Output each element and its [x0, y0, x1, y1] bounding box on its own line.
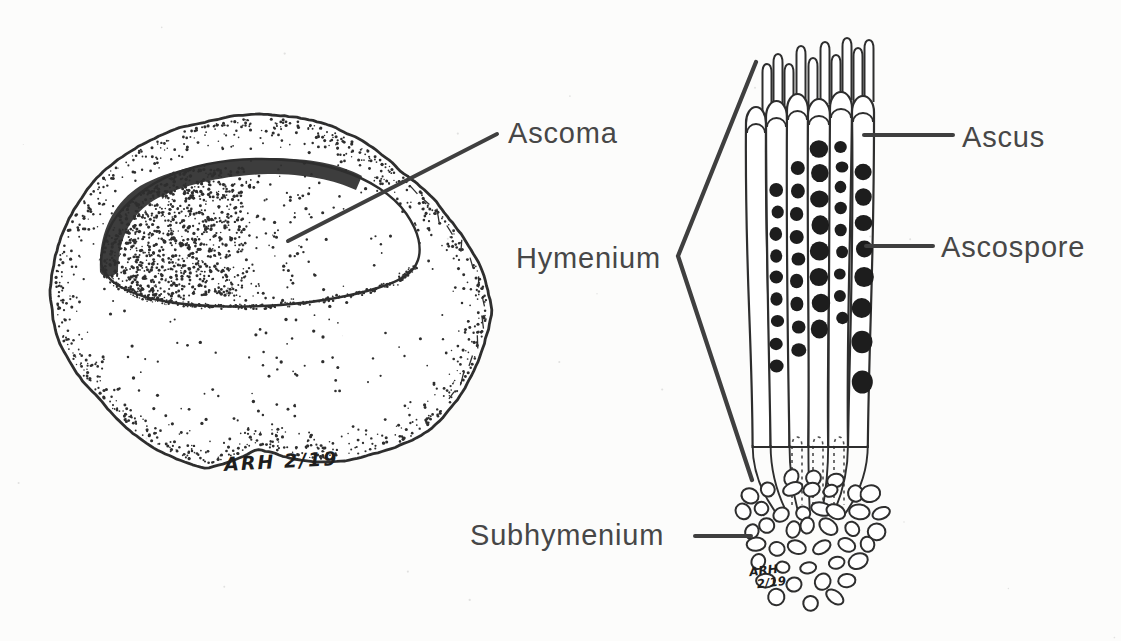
- label-subhymenium: Subhymenium: [470, 518, 664, 552]
- artist-signature-right: ARH 2/19: [749, 562, 787, 592]
- label-ascus: Ascus: [962, 120, 1045, 154]
- label-ascospore: Ascospore: [941, 230, 1085, 264]
- label-ascoma: Ascoma: [508, 116, 618, 150]
- label-hymenium: Hymenium: [516, 241, 661, 275]
- figure-canvas: Ascoma Ascus Ascospore Hymenium Subhymen…: [0, 0, 1121, 641]
